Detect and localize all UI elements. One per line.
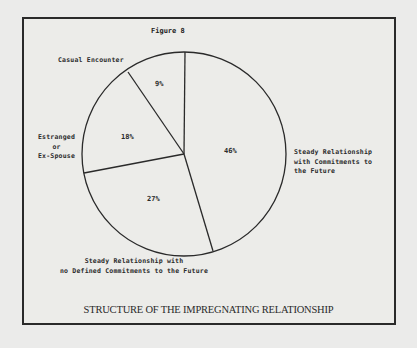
slice-pct-18: 18%: [121, 133, 134, 141]
slice-pct-46: 46%: [224, 147, 237, 155]
wedge-divider-left: [84, 154, 184, 173]
figure-caption: STRUCTURE OF THE IMPREGNATING RELATIONSH…: [0, 304, 417, 315]
slice-pct-27: 27%: [147, 195, 160, 203]
label-estranged: EstrangedorEx-Spouse: [34, 133, 79, 162]
label-casual-encounter: Casual Encounter: [58, 56, 124, 66]
slice-pct-9: 9%: [155, 80, 163, 88]
wedge-divider-bottom: [184, 154, 213, 251]
label-steady-no-commitments: Steady Relationship withno Defined Commi…: [44, 257, 224, 276]
wedge-divider-top: [184, 52, 185, 154]
label-steady-commitments: Steady Relationshipwith Commitments toth…: [294, 148, 372, 177]
